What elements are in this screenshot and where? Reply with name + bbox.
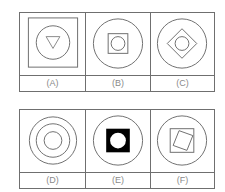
option-label: (F) [151,173,214,188]
figure-c [151,13,214,76]
circle-square-circle-icon [86,13,150,75]
circle-diamond-circle-icon [151,13,214,75]
figure-d [20,110,85,173]
options-row-bottom: (D) (E) (F) [19,109,215,189]
option-label: (B) [86,76,150,91]
figure-e [86,110,150,173]
figure-a [20,13,85,76]
figure-b [86,13,150,76]
figure-f [151,110,214,173]
square-circle-triangle-icon [20,13,85,75]
option-b[interactable]: (B) [86,13,151,91]
circle-filled-square-icon [86,110,150,172]
option-label: (C) [151,76,214,91]
option-label: (D) [20,173,85,188]
circle-square-rotated-square-icon [151,110,214,172]
option-e[interactable]: (E) [86,110,151,188]
option-f[interactable]: (F) [151,110,214,188]
option-c[interactable]: (C) [151,13,214,91]
option-d[interactable]: (D) [20,110,86,188]
option-a[interactable]: (A) [20,13,86,91]
concentric-circles-icon [20,110,85,172]
option-label: (E) [86,173,150,188]
option-label: (A) [20,76,85,91]
options-row-top: (A) (B) (C) [19,12,215,92]
